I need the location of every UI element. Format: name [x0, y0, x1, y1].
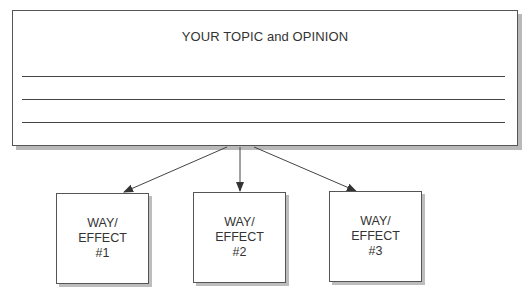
- effect-2-line1: WAY/: [224, 215, 255, 230]
- effect-1-line3: #1: [96, 246, 110, 261]
- effect-box-1: WAY/ EFFECT #1: [56, 193, 149, 284]
- effect-2-line3: #2: [233, 245, 247, 260]
- effect-1-line1: WAY/: [87, 216, 118, 231]
- arrow-to-effect-3: [254, 147, 356, 191]
- effect-2-line2: EFFECT: [215, 230, 264, 245]
- effect-3-line3: #3: [369, 244, 383, 259]
- effect-box-2: WAY/ EFFECT #2: [193, 192, 286, 283]
- effect-3-line2: EFFECT: [351, 229, 400, 244]
- arrow-to-effect-1: [124, 147, 227, 192]
- effect-box-3: WAY/ EFFECT #3: [329, 191, 422, 282]
- effect-1-line2: EFFECT: [78, 231, 127, 246]
- effect-3-line1: WAY/: [360, 214, 391, 229]
